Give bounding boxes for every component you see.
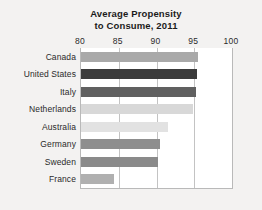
category-label-netherlands: Netherlands xyxy=(0,104,76,114)
x-tick-label-100: 100 xyxy=(223,36,238,46)
bar-australia xyxy=(81,122,168,132)
category-label-canada: Canada xyxy=(0,52,76,62)
chart-figure: Average Propensity to Consume, 2011 8085… xyxy=(0,0,262,210)
bar-france xyxy=(81,174,114,184)
chart-title-line-2: to Consume, 2011 xyxy=(56,20,216,32)
plot-area xyxy=(80,48,233,189)
category-label-australia: Australia xyxy=(0,122,76,132)
category-label-sweden: Sweden xyxy=(0,157,76,167)
bar-germany xyxy=(81,139,160,149)
y-axis-category-labels: CanadaUnited StatesItalyNetherlandsAustr… xyxy=(0,48,76,188)
chart-title-line-1: Average Propensity xyxy=(56,8,216,20)
bar-canada xyxy=(81,52,198,62)
category-label-germany: Germany xyxy=(0,139,76,149)
bar-italy xyxy=(81,87,196,97)
x-axis-tick-labels: 80859095100 xyxy=(0,36,262,48)
bar-series xyxy=(81,48,232,188)
x-tick-label-90: 90 xyxy=(150,36,160,46)
category-label-france: France xyxy=(0,174,76,184)
x-tick-label-85: 85 xyxy=(113,36,123,46)
bar-united-states xyxy=(81,69,197,79)
bar-sweden xyxy=(81,157,158,167)
bar-netherlands xyxy=(81,104,193,114)
x-tick-label-95: 95 xyxy=(188,36,198,46)
category-label-italy: Italy xyxy=(0,87,76,97)
category-label-united-states: United States xyxy=(0,69,76,79)
x-tick-label-80: 80 xyxy=(75,36,85,46)
chart-title: Average Propensity to Consume, 2011 xyxy=(56,8,216,31)
